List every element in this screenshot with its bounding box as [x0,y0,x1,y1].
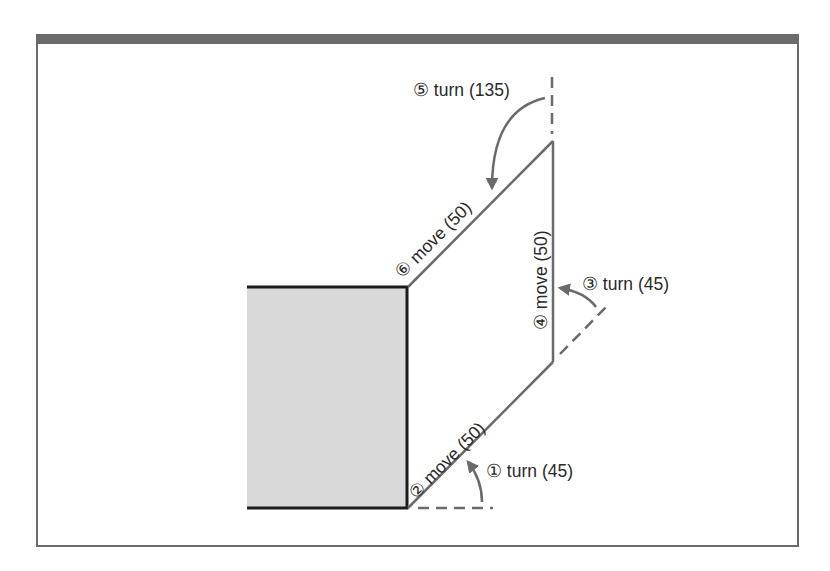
turn-arrow-1 [468,462,482,502]
label-step-2: ② move (50) [404,418,489,503]
shaded-block [247,287,407,508]
label-step-5: ⑤ turn (135) [413,80,510,100]
label-step-1: ① turn (45) [486,461,573,481]
label-step-6: ⑥ move (50) [391,197,476,282]
label-step-3: ③ turn (45) [582,274,669,294]
dashed-heading-3 [560,306,607,354]
turtle-path-diagram: ① turn (45) ② move (50) ③ turn (45) ④ mo… [0,0,830,571]
label-step-4: ④ move (50) [531,230,551,330]
